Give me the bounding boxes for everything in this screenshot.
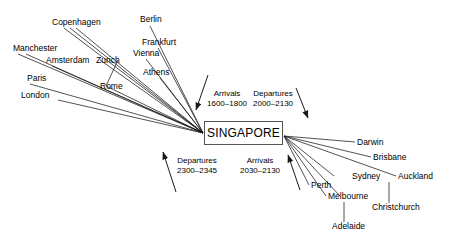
annotation-time: 2300–2345	[177, 166, 217, 176]
city-label-brisbane[interactable]: Brisbane	[373, 153, 407, 162]
hub-label: SINGAPORE	[207, 126, 280, 140]
annotation-title: Departures	[253, 89, 293, 99]
city-label-zurich[interactable]: Zurich	[96, 56, 120, 65]
city-label-perth[interactable]: Perth	[311, 181, 331, 190]
city-label-melbourne[interactable]: Melbourne	[328, 192, 368, 201]
annotation-arrivals-top: Arrivals 1600–1800	[207, 89, 247, 109]
annotation-title: Arrivals	[240, 156, 280, 166]
annotation-title: Arrivals	[207, 89, 247, 99]
city-label-christchurch[interactable]: Christchurch	[372, 203, 420, 212]
city-label-athens[interactable]: Athens	[143, 68, 169, 77]
city-label-manchester[interactable]: Manchester	[13, 44, 57, 53]
city-label-sydney[interactable]: Sydney	[352, 172, 380, 181]
city-label-amsterdam[interactable]: Amsterdam	[46, 56, 89, 65]
city-label-london[interactable]: London	[21, 91, 49, 100]
hub-node-singapore[interactable]: SINGAPORE	[204, 121, 283, 145]
city-label-auckland[interactable]: Auckland	[398, 172, 433, 181]
city-label-adelaide[interactable]: Adelaide	[332, 222, 365, 231]
annotation-time: 1600–1800	[207, 99, 247, 109]
city-label-copenhagen[interactable]: Copenhagen	[52, 18, 101, 27]
city-label-darwin[interactable]: Darwin	[357, 138, 383, 147]
annotation-title: Departures	[177, 156, 217, 166]
city-label-berlin[interactable]: Berlin	[140, 15, 162, 24]
flight-network-diagram: SINGAPORE Copenhagen Berlin Frankfurt Vi…	[0, 0, 458, 239]
city-label-frankfurt[interactable]: Frankfurt	[142, 38, 176, 47]
city-label-rome[interactable]: Rome	[100, 82, 123, 91]
annotation-departures-top: Departures 2000–2130	[253, 89, 293, 109]
city-label-vienna[interactable]: Vienna	[133, 49, 159, 58]
annotation-departures-bottom: Departures 2300–2345	[177, 156, 217, 176]
annotation-time: 2000–2130	[253, 99, 293, 109]
annotation-time: 2030–2130	[240, 166, 280, 176]
annotation-arrivals-bottom: Arrivals 2030–2130	[240, 156, 280, 176]
city-label-paris[interactable]: Paris	[27, 74, 46, 83]
